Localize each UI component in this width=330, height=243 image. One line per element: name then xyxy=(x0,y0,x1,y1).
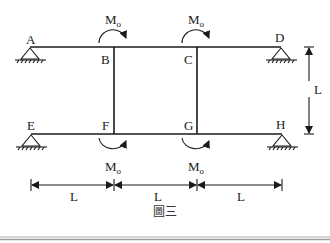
pin-support-d xyxy=(266,48,297,63)
svg-text:L: L xyxy=(314,82,322,97)
moment-arrow-c: Mo xyxy=(182,12,209,43)
node-label-g: G xyxy=(184,118,193,133)
svg-text:L: L xyxy=(154,189,162,204)
node-label-a: A xyxy=(26,32,36,47)
svg-text:Mo: Mo xyxy=(105,12,122,29)
moment-arrow-g: Mo xyxy=(182,138,209,176)
pin-support-e xyxy=(16,135,47,150)
figure-caption: 圖三 xyxy=(153,205,177,219)
pin-support-a xyxy=(15,48,46,63)
vertical-dimension: L xyxy=(301,47,322,134)
horizontal-dimension: L L L xyxy=(31,179,282,204)
node-label-h: H xyxy=(276,117,285,132)
frame-diagram: A B C D E F G H Mo Mo Mo Mo L xyxy=(0,0,330,243)
svg-text:Mo: Mo xyxy=(188,12,205,29)
svg-text:L: L xyxy=(70,189,78,204)
pin-support-h xyxy=(267,135,298,150)
node-label-c: C xyxy=(184,52,193,67)
moment-arrow-f: Mo xyxy=(99,138,126,176)
svg-text:Mo: Mo xyxy=(105,159,122,176)
moment-arrow-b: Mo xyxy=(99,12,126,43)
node-label-b: B xyxy=(101,52,110,67)
node-label-e: E xyxy=(27,118,35,133)
svg-text:Mo: Mo xyxy=(188,159,205,176)
svg-text:L: L xyxy=(237,189,245,204)
node-label-f: F xyxy=(102,118,109,133)
node-label-d: D xyxy=(275,30,284,45)
